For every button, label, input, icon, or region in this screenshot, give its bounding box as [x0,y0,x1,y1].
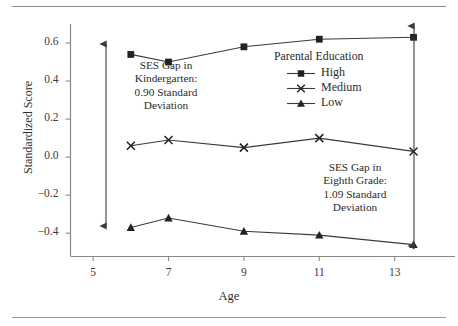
x-tick-label: 9 [229,266,259,278]
series-line [131,138,414,151]
legend-title: Parental Education [272,49,422,64]
chart-legend: Parental Education HighMediumLow [272,49,422,110]
figure-container: 0.60.40.20.0−0.2−0.4 5791113 Standardize… [0,0,458,326]
legend-item-low[interactable]: Low [272,95,422,110]
x-tick-label: 13 [380,266,410,278]
data-point-marker [241,43,248,50]
annotation-line: SES Gap in [110,59,222,72]
y-tick-label: −0.4 [19,225,59,237]
x-tick-label: 5 [78,266,108,278]
annotation-line: Kindergarten: [110,72,222,85]
data-point-marker [164,214,172,222]
x-marker-icon [286,81,316,94]
legend-item-high[interactable]: High [272,65,422,80]
annotation-line: 0.90 Standard [110,86,222,99]
legend-item-label: Low [321,95,343,110]
legend-items: HighMediumLow [272,65,422,110]
legend-item-label: High [321,65,345,80]
annotation-eighth-grade-gap: SES Gap in Eighth Grade: 1.09 Standard D… [297,161,413,215]
annotation-line: 1.09 Standard [297,188,413,201]
y-axis-title: Standardized Score [21,48,36,208]
data-series-medium [127,134,418,155]
y-axis-ticks [66,43,71,233]
annotation-line: Eighth Grade: [297,174,413,187]
x-tick-label: 11 [304,266,334,278]
data-point-marker [127,51,134,58]
square-marker-icon [286,66,316,79]
annotation-line: Deviation [297,201,413,214]
legend-item-label: Medium [321,80,362,95]
data-point-marker [316,36,323,43]
y-tick-label: 0.6 [19,35,59,47]
legend-item-medium[interactable]: Medium [272,80,422,95]
annotation-line: Deviation [110,99,222,112]
x-axis-title: Age [0,289,458,304]
data-series-low [127,214,418,248]
triangle-marker-icon [286,96,316,109]
x-tick-label: 7 [154,266,184,278]
annotation-line: SES Gap in [297,161,413,174]
annotation-kindergarten-gap: SES Gap in Kindergarten: 0.90 Standard D… [110,59,222,113]
series-line [131,218,414,245]
